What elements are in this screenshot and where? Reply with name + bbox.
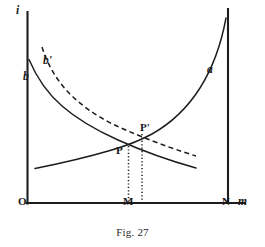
x-tick-label-m: M	[123, 196, 133, 207]
origin-label: O	[18, 196, 27, 207]
point-label-p-prime: P'	[140, 122, 150, 133]
curve-b-prime	[42, 47, 196, 156]
curve-label-a: a	[207, 64, 213, 76]
x-tick-label-n: N	[222, 196, 230, 207]
x-axis-label: m	[238, 196, 247, 208]
figure-caption: Fig. 27	[0, 226, 265, 238]
figure-27-container: i m O M N P P' a b b' Fig. 27	[0, 0, 265, 247]
curve-label-b-prime: b'	[43, 55, 52, 67]
plot-canvas	[0, 0, 265, 247]
curve-b	[29, 60, 196, 169]
point-label-p: P	[116, 145, 123, 156]
curve-label-b: b	[23, 71, 29, 83]
y-axis-label: i	[16, 5, 19, 17]
